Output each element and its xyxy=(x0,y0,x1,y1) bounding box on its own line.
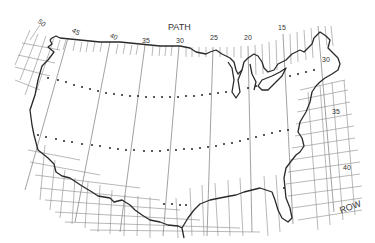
path-label-25: 25 xyxy=(210,34,218,41)
path-label-50: 50 xyxy=(37,18,48,28)
path-label-15: 15 xyxy=(278,24,286,31)
path-label-40: 40 xyxy=(109,32,119,42)
row-track-dots xyxy=(37,69,315,206)
south-grid xyxy=(28,145,280,238)
path-label-30: 30 xyxy=(176,37,184,44)
row-label-40: 40 xyxy=(343,164,351,171)
top-ticks xyxy=(57,26,333,75)
path-axis-title: PATH xyxy=(168,22,191,32)
row-label-35: 35 xyxy=(332,108,340,115)
path-row-map: PATH ROW 50 45 40 35 30 25 20 15 30 35 4… xyxy=(0,0,375,243)
path-label-45: 45 xyxy=(71,27,81,37)
row-track-middle xyxy=(37,129,289,152)
great-lakes xyxy=(228,62,286,98)
path-label-35: 35 xyxy=(142,37,150,44)
us-outline xyxy=(30,32,340,238)
row-label-30: 30 xyxy=(322,56,330,63)
path-label-20: 20 xyxy=(244,34,252,41)
